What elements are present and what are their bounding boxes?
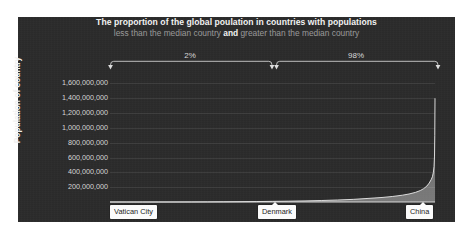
gridline <box>110 143 435 144</box>
y-axis-tick: 1,400,000,000 <box>62 94 108 102</box>
plot-area <box>110 76 435 202</box>
bracket-label-left: 2% <box>108 51 272 60</box>
gridline <box>110 83 435 84</box>
bracket-label-right: 98% <box>276 51 436 60</box>
callout-vatican-city[interactable]: Vatican City <box>110 205 157 219</box>
subtitle-first-clause: less than the median country <box>114 28 223 38</box>
gridline <box>110 128 435 129</box>
callout-china-notch <box>420 202 426 205</box>
chart-title: The proportion of the global poulation i… <box>18 17 455 28</box>
y-axis-tick-labels: 1,600,000,0001,400,000,0001,200,000,0001… <box>50 72 108 196</box>
gridline <box>110 172 435 173</box>
chart-subtitle: less than the median country and greater… <box>18 28 455 39</box>
callout-denmark[interactable]: Denmark <box>258 205 296 219</box>
y-axis-tick: 400,000,000 <box>68 168 108 176</box>
subtitle-conjunction: and <box>223 28 238 38</box>
gridline <box>110 158 435 159</box>
population-curve <box>110 76 435 202</box>
y-axis-title: Population of country <box>12 52 22 148</box>
y-axis-tick: 200,000,000 <box>68 183 108 191</box>
callout-china[interactable]: China <box>406 205 433 219</box>
y-axis-tick: 800,000,000 <box>68 139 108 147</box>
y-axis-tick: 1,200,000,000 <box>62 109 108 117</box>
gridline <box>110 98 435 99</box>
callout-denmark-notch <box>272 202 278 205</box>
y-axis-tick: 1,000,000,000 <box>62 124 108 132</box>
gridline <box>110 187 435 188</box>
chart-figure: The proportion of the global poulation i… <box>0 0 473 240</box>
y-axis-tick: 1,600,000,000 <box>62 79 108 87</box>
gridline <box>110 113 435 114</box>
y-axis-tick: 600,000,000 <box>68 154 108 162</box>
subtitle-second-clause: greater than the median country <box>238 28 359 38</box>
